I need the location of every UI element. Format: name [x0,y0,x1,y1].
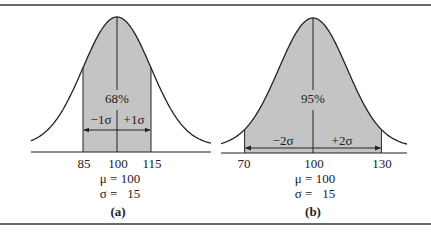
panel-b-caption: (b) [305,205,321,219]
panel-b-right-sigma-label: +2σ [332,134,353,148]
panel-a-caption: (a) [110,205,125,219]
normal-curves-figure [0,0,431,232]
panel-a-tick-100: 100 [108,157,128,171]
panel-a-right-sigma-label: +1σ [124,113,145,127]
panel-a-tick-85: 85 [78,157,91,171]
panel-a-tick-115: 115 [142,157,161,171]
panel-b-curve [221,18,407,153]
panel-b-mu-label: μ = 100 [295,172,335,186]
panel-a-mu-label: μ = 100 [100,172,140,186]
panel-a-percent-label: 68% [105,92,129,106]
panel-b-percent-label: 95% [301,92,325,106]
panel-a-left-sigma-label: −1σ [91,113,112,127]
panel-b-tick-70: 70 [238,157,251,171]
panel-a-sigma-label: σ = 15 [100,187,140,201]
panel-b-tick-130: 130 [372,157,392,171]
panel-b-sigma-label: σ = 15 [295,187,335,201]
panel-a-curve [31,17,211,152]
panel-b-left-sigma-label: −2σ [273,134,294,148]
panel-b-tick-100: 100 [304,157,324,171]
